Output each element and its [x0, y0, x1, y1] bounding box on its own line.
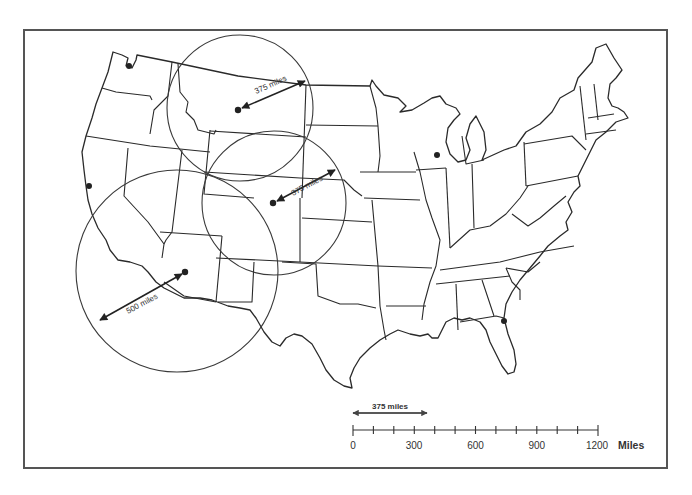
scale-tick-label-1200: 1200	[586, 440, 609, 451]
state-borders	[86, 62, 616, 340]
marker-seattle	[126, 63, 132, 69]
scale-reference-label: 375 miles	[372, 402, 409, 411]
scale-bar: 375 miles 0 300 600 900 1200 Miles	[350, 402, 644, 451]
scale-tick-label-600: 600	[467, 440, 484, 451]
us-map: 375 miles 375 miles 500 miles 375 miles …	[0, 0, 692, 495]
radius-label-montana: 375 miles	[253, 74, 288, 96]
marker-san-francisco	[86, 183, 92, 189]
marker-montana-center	[235, 107, 241, 113]
scale-tick-label-0: 0	[350, 440, 356, 451]
radius-arrow-arizona	[100, 274, 182, 320]
radius-circle-arizona	[76, 170, 278, 372]
marker-arizona-center	[182, 269, 188, 275]
marker-colorado-center	[270, 200, 276, 206]
marker-chicago	[434, 152, 440, 158]
scale-tick-label-900: 900	[528, 440, 545, 451]
scale-tick-label-300: 300	[406, 440, 423, 451]
us-outline	[82, 44, 628, 388]
scale-unit-label: Miles	[618, 439, 644, 451]
marker-jacksonville	[501, 318, 507, 324]
